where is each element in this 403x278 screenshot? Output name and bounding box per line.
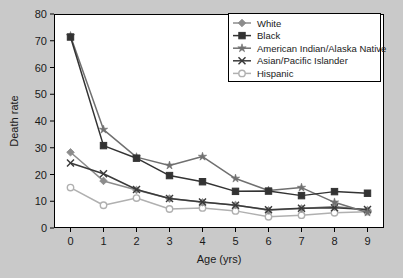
y-axis-tick-label: 60 (35, 62, 47, 74)
y-axis-tick-label: 10 (35, 195, 47, 207)
x-axis-tick-label: 8 (331, 235, 337, 247)
x-axis-tick-label: 4 (199, 235, 205, 247)
y-axis-tick-label: 20 (35, 169, 47, 181)
x-axis-tick-label: 9 (364, 235, 370, 247)
legend-label: American Indian/Alaska Native (257, 43, 386, 54)
legend-label: Hispanic (257, 68, 294, 79)
y-axis-tick-label: 40 (35, 115, 47, 127)
x-axis-tick-label: 6 (265, 235, 271, 247)
legend-marker (239, 32, 245, 38)
data-point-marker (364, 190, 370, 196)
data-point-marker (100, 202, 106, 208)
data-point-marker (199, 179, 205, 185)
data-point-marker (166, 172, 172, 178)
legend-entry[interactable]: Hispanic (233, 68, 294, 79)
legend-label: Asian/Pacific Islander (257, 55, 348, 66)
data-point-marker (166, 206, 172, 212)
y-axis-tick-label: 80 (35, 8, 47, 20)
data-point-marker (265, 188, 271, 194)
data-point-marker (298, 212, 304, 218)
data-point-marker (298, 192, 304, 198)
y-axis-title: Death rate (8, 95, 20, 146)
chart-legend: WhiteBlackAmerican Indian/Alaska NativeA… (229, 14, 387, 82)
x-axis-tick-label: 0 (67, 235, 73, 247)
data-point-marker (67, 34, 73, 40)
y-axis-tick-label: 70 (35, 35, 47, 47)
data-point-marker (67, 184, 73, 190)
y-axis-tick-label: 30 (35, 142, 47, 154)
chart-canvas: 010203040506070800123456789Age (yrs)Deat… (0, 0, 396, 271)
x-axis-title: Age (yrs) (197, 253, 242, 265)
data-point-marker (100, 142, 106, 148)
legend-marker (239, 70, 245, 76)
y-axis-tick-label: 0 (41, 222, 47, 234)
x-axis-tick-label: 7 (298, 235, 304, 247)
data-point-marker (331, 188, 337, 194)
data-point-marker (133, 155, 139, 161)
legend-label: White (257, 18, 281, 29)
x-axis-tick-label: 5 (232, 235, 238, 247)
x-axis-tick-label: 3 (166, 235, 172, 247)
legend-label: Black (257, 30, 280, 41)
chart-figure: 010203040506070800123456789Age (yrs)Deat… (0, 0, 403, 278)
x-axis-tick-label: 2 (133, 235, 139, 247)
y-axis-tick-label: 50 (35, 88, 47, 100)
data-point-marker (133, 195, 139, 201)
data-point-marker (232, 188, 238, 194)
line-chart: 010203040506070800123456789Age (yrs)Deat… (0, 0, 403, 278)
x-axis-tick-label: 1 (100, 235, 106, 247)
